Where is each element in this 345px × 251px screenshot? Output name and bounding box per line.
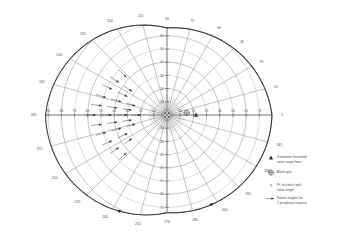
kinetic-target-arrow: [118, 132, 128, 138]
radial-scale-label: 80: [60, 109, 64, 113]
legend-label-line2: static target here: [277, 160, 302, 164]
radial-scale-label: 30: [160, 74, 164, 78]
kinetic-target-arrow: [101, 114, 112, 116]
meridian-degree-label: 90: [165, 17, 169, 21]
meridian-degree-label: 300: [222, 208, 228, 212]
radial-scale-label: 30: [205, 109, 209, 113]
meridian-degree-label: 165: [39, 80, 45, 84]
legend-label-line2: static target: [277, 188, 294, 192]
radial-scale-label: 70: [73, 109, 77, 113]
threshold-triangle-icon: [194, 112, 198, 116]
radial-scale-label: 50: [160, 179, 164, 183]
radial-scale-label: 50: [160, 47, 164, 51]
meridian-degree-label: 210: [52, 176, 58, 180]
legend-item: Blind spot: [268, 169, 292, 175]
kinetic-target-arrow: [96, 131, 106, 135]
meridian-degree-label: 180: [31, 113, 37, 117]
radial-scale-label: 20: [160, 140, 164, 144]
radial-scale-label: 50: [99, 109, 103, 113]
radial-scale-label: 10: [152, 109, 156, 113]
radial-scale-label: 60: [160, 192, 164, 196]
kinetic-target-arrow: [102, 85, 112, 91]
meridian-degree-label: 240: [102, 215, 108, 219]
meridian-degree-label: 135: [80, 32, 86, 36]
legend-item: PPt. to check withstatic target: [270, 183, 301, 192]
legend-label-line1: Blind spot: [277, 170, 292, 174]
kinetic-target-arrow: [102, 140, 112, 146]
kinetic-target-arrow: [107, 121, 118, 124]
radial-scale-label: 20: [192, 109, 196, 113]
arrow-icon: [266, 197, 275, 199]
point-marker-icon: P: [270, 184, 273, 188]
meridian-degree-label: 315: [245, 192, 251, 196]
perimetry-chart: 1020304050607010203040506070809010203040…: [0, 0, 345, 251]
kinetic-target-arrow: [110, 147, 119, 154]
radial-scale-label: 10: [160, 100, 164, 104]
radial-scale-label: 20: [160, 87, 164, 91]
radial-scale-label: 40: [160, 166, 164, 170]
meridian-degree-label: 195: [36, 147, 42, 151]
meridian-degree-label: 75: [190, 19, 194, 23]
meridian-degree-label: 105: [138, 14, 144, 18]
kinetic-target-arrow: [96, 95, 106, 99]
perimetry-svg: 1020304050607010203040506070809010203040…: [0, 0, 345, 251]
meridian-degree-label: 225: [75, 200, 81, 204]
legend: Determine thresholdstatic target hereBli…: [266, 155, 308, 205]
radial-scale-label: 40: [218, 109, 222, 113]
legend-item: Determine thresholdstatic target here: [269, 155, 307, 164]
radial-scale-label: 70: [160, 206, 164, 210]
kinetic-target-arrow: [91, 104, 102, 107]
radial-scale-label: 50: [231, 109, 235, 113]
meridian-degree-label: 30: [260, 60, 264, 64]
kinetic-target-arrow: [124, 138, 132, 144]
radial-scale-label: 40: [160, 60, 164, 64]
filled-triangle-icon: [269, 156, 273, 160]
meridian-degree-label: 285: [192, 218, 198, 222]
legend-label-line1: Determine threshold: [277, 155, 307, 159]
radial-scale-label: 20: [139, 109, 143, 113]
legend-label-line1: Pt. to check with: [277, 183, 301, 187]
meridian-degree-label: 345: [276, 143, 282, 147]
svg-text:P: P: [270, 184, 273, 188]
kinetic-target-arrow: [131, 114, 140, 116]
meridian-degree-label: 255: [135, 222, 141, 226]
meridian-degree-label: 270: [164, 220, 170, 224]
kinetic-target-arrow: [85, 114, 96, 116]
radial-scale-label: 60: [86, 109, 90, 113]
kinetic-target-arrow: [110, 77, 119, 84]
meridian-degree-label: 60: [217, 26, 221, 30]
meridian-degree-label: 150: [56, 53, 62, 57]
radial-scale-label: 10: [178, 109, 182, 113]
kinetic-target-arrow: [118, 92, 128, 98]
radial-scale-label: 30: [160, 153, 164, 157]
kinetic-target-arrow: [124, 86, 132, 92]
legend-item: Kinetic targets for2 peripheral isopters: [266, 196, 308, 205]
kinetic-target-arrow: [117, 114, 128, 116]
legend-label-line2: 2 peripheral isopters: [277, 201, 307, 205]
radial-scale-label: 90: [46, 109, 50, 113]
radial-scale-label: 70: [258, 109, 262, 113]
radial-scale-label: 10: [160, 126, 164, 130]
meridian-degree-label: 120: [107, 19, 113, 23]
radial-scale-label: 60: [244, 109, 248, 113]
radial-scale-label: 60: [160, 34, 164, 38]
radial-scale-label: 40: [112, 109, 116, 113]
legend-label-line1: Kinetic targets for: [277, 196, 304, 200]
meridian-degree-label: 15: [274, 85, 278, 89]
threshold-marker: [194, 112, 198, 116]
meridian-degree-label: 0: [281, 113, 283, 117]
kinetic-target-arrow: [123, 119, 132, 122]
meridian-spokes: [46, 25, 272, 215]
meridian-degree-label: 45: [240, 40, 244, 44]
meridian-degree-labels: 0153045607590105120135150165180195210225…: [31, 14, 284, 225]
kinetic-target-arrow: [91, 123, 102, 126]
